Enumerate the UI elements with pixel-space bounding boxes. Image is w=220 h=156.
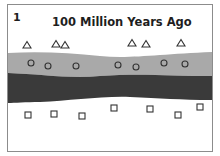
panel-title: 100 Million Years Ago (52, 15, 192, 29)
fossil-layers-diagram: 1 100 Million Years Ago (0, 0, 220, 156)
panel-number: 1 (13, 11, 21, 24)
